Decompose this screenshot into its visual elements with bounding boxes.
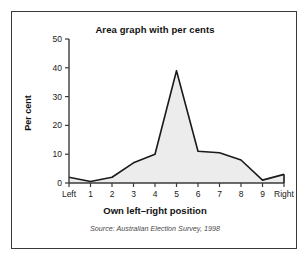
y-tick-label: 30 (53, 92, 63, 102)
x-tick-label: Left (62, 189, 77, 199)
x-tick-label: 7 (217, 189, 222, 199)
x-tick-label: 2 (110, 189, 115, 199)
source-note: Source: Australian Election Survey, 1998 (12, 224, 298, 233)
x-tick-label: 4 (153, 189, 158, 199)
y-tick-label: 20 (53, 120, 63, 130)
y-tick-label: 10 (53, 149, 63, 159)
x-tick-label: 9 (260, 189, 265, 199)
x-axis-title: Own left–right position (12, 205, 298, 216)
y-tick-label: 40 (53, 63, 63, 73)
x-tick-label: 3 (131, 189, 136, 199)
x-tick-label: 8 (239, 189, 244, 199)
y-tick-label: 50 (53, 34, 63, 44)
x-tick-label: 6 (196, 189, 201, 199)
area-fill (69, 71, 284, 183)
x-tick-label: Right (274, 189, 294, 199)
figure-frame: Area graph with per cents Per cent 01020… (11, 11, 297, 249)
x-tick-label: 5 (174, 189, 179, 199)
y-tick-label: 0 (57, 178, 62, 188)
chart-area: Area graph with per cents Per cent 01020… (12, 12, 298, 250)
x-tick-label: 1 (88, 189, 93, 199)
